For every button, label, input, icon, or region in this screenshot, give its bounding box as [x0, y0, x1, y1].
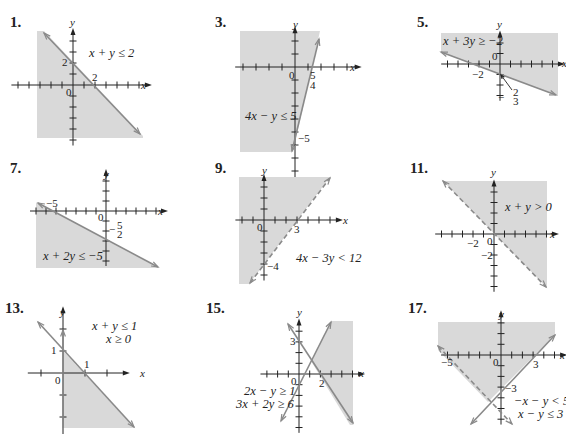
axis-label: y — [296, 306, 302, 318]
axis-label: 1 — [51, 344, 57, 356]
axis-label: y — [59, 306, 65, 318]
inequality-label: 3x + 2y ≥ 6 — [235, 397, 294, 411]
inequality-label: x − y ≤ 3 — [517, 407, 563, 421]
axis-label: x — [157, 205, 163, 217]
axis-label: 0 — [98, 211, 104, 223]
graph-problem-13: 110yxx + y ≤ 1x ≥ 0 — [28, 306, 145, 434]
axis-label: y — [498, 308, 504, 320]
axis-label: − — [109, 223, 115, 235]
axis-label: y — [69, 16, 75, 28]
axis-label: 3 — [290, 335, 296, 347]
axis-label: − — [498, 91, 504, 103]
graph-problem-7: −50−52yxx + 2y ≤ −5 — [30, 168, 168, 268]
graph-problem-5: 0−2yx−23x + 3y ≥ −2 — [441, 18, 566, 107]
inequality-label: 2x − y ≥ 1 — [244, 384, 295, 398]
axis-label: 2 — [319, 377, 325, 389]
axis-label: 0 — [66, 86, 72, 98]
graph-problem-15: 302yx2x − y ≥ 13x + 2y ≥ 6 — [235, 306, 365, 433]
inequality-label: x + 2y ≤ −5 — [42, 249, 103, 263]
axis-label: 4 — [310, 79, 316, 91]
axis-label: y — [261, 164, 267, 176]
axis-label: 0 — [487, 235, 493, 247]
inequality-label: x + y ≤ 1 — [91, 319, 137, 333]
axis-label: 3 — [513, 95, 519, 107]
inequality-label: 4x − 3y < 12 — [296, 251, 361, 265]
solution-region — [239, 177, 330, 284]
axis-label: x — [549, 228, 555, 240]
inequality-label: x + y ≤ 2 — [88, 46, 134, 60]
axis-label: 0 — [55, 374, 61, 386]
axis-label: 0 — [289, 69, 295, 81]
axis-label: x — [559, 349, 565, 361]
inequality-graphs: 220yxx + y ≤ 2054−5yx4x − y ≤ 50−2yx−23x… — [0, 0, 566, 434]
axis-label: y — [292, 18, 298, 30]
graph-problem-11: 0−2−2yxx + y > 0 — [435, 166, 559, 292]
axis-label: 0 — [492, 50, 498, 62]
graph-problem-17: −503−3yx−x − y < 5x − y ≤ 3 — [438, 308, 566, 425]
graph-problem-3: 054−5yx4x − y ≤ 5 — [235, 18, 362, 178]
axis-label: 0 — [493, 356, 499, 368]
axis-label: x — [358, 367, 364, 379]
axis-label: x — [139, 367, 145, 379]
axis-label: 3 — [533, 358, 539, 370]
axis-label: 0 — [257, 221, 263, 233]
axis-label: −5 — [441, 356, 453, 368]
axis-label: 2 — [92, 71, 98, 83]
axis-label: x — [140, 79, 146, 91]
axis-label: y — [103, 168, 109, 180]
inequality-label: x + y > 0 — [504, 200, 552, 214]
axis-label: y — [490, 166, 496, 178]
axis-label: −2 — [481, 249, 493, 261]
axis-label: 2 — [62, 56, 68, 68]
inequality-label: x ≥ 0 — [105, 332, 132, 346]
axis-label: 2 — [117, 228, 123, 240]
axis-label: −2 — [467, 237, 479, 249]
axis-label: −5 — [298, 132, 310, 144]
axis-label: x — [561, 57, 566, 69]
axis-label: 1 — [84, 358, 90, 370]
inequality-label: −x − y < 5 — [514, 394, 566, 408]
axis-label: x — [349, 61, 355, 73]
graph-problem-1: 220yxx + y ≤ 2 — [11, 16, 152, 146]
axis-label: −3 — [505, 382, 517, 394]
axis-label: −4 — [267, 260, 279, 272]
axis-label: −5 — [46, 197, 58, 209]
solution-region — [311, 321, 353, 425]
inequality-label: x + 3y ≥ −2 — [442, 34, 503, 48]
axis-label: y — [496, 18, 502, 30]
graph-problem-9: 03−4yx4x − 3y < 12 — [235, 164, 361, 284]
inequality-label: 4x − y ≤ 5 — [245, 109, 296, 123]
axis-label: −2 — [472, 68, 484, 80]
axis-label: x — [342, 214, 348, 226]
axis-label: 3 — [294, 223, 300, 235]
